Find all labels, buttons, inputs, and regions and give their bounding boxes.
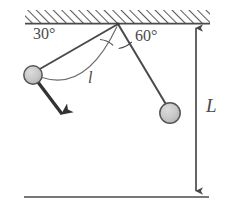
ceiling xyxy=(25,10,210,24)
pendulum-figure: 30° 60° l L xyxy=(0,0,229,212)
angle-label-left: 30° xyxy=(33,26,55,42)
height-label: L xyxy=(206,96,217,115)
bob-left xyxy=(24,66,42,84)
velocity-arrow xyxy=(38,82,63,115)
ceiling-hatch xyxy=(25,10,210,23)
angle-label-right: 60° xyxy=(135,28,157,44)
angle-arc-left xyxy=(100,40,113,46)
pivot-point xyxy=(116,22,119,25)
bob-right xyxy=(160,103,180,123)
arc-length-label: l xyxy=(88,70,92,86)
